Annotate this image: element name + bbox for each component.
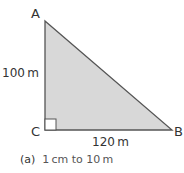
vertex-c-label: C <box>31 125 40 138</box>
caption-scale: 1 cm to 10 m <box>42 153 113 166</box>
triangle-abc <box>45 21 172 130</box>
vertex-b-label: B <box>174 125 183 138</box>
caption: (a) 1 cm to 10 m <box>20 154 113 165</box>
vertex-a-label: A <box>31 7 40 20</box>
side-cb-length: 120 m <box>92 136 129 148</box>
side-ac-length: 100 m <box>2 67 39 79</box>
right-angle-marker <box>45 119 56 130</box>
caption-label: (a) <box>20 153 35 166</box>
